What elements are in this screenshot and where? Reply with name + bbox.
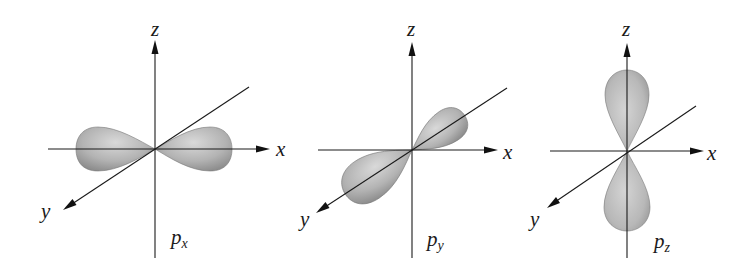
pz-y-arrow-icon (547, 197, 560, 208)
px-orbital-label: px (169, 225, 189, 251)
px-y-arrow-icon (63, 199, 77, 210)
px-z-arrow-icon (152, 40, 159, 54)
pz-y-label: y (528, 207, 540, 231)
pz-z-label: z (621, 17, 630, 41)
px-x-arrow-icon (256, 146, 270, 153)
py-orbital-label: py (425, 227, 445, 253)
px-y-label: y (39, 199, 51, 223)
panel-px: z x y px (39, 17, 286, 258)
py-z-arrow-icon (409, 42, 416, 56)
py-y-arrow-icon (316, 202, 330, 213)
py-y-label: y (298, 207, 310, 231)
pz-z-arrow-icon (624, 43, 631, 57)
py-y-axis (325, 88, 507, 207)
py-z-label: z (406, 17, 415, 41)
py-x-arrow-icon (484, 147, 498, 154)
panel-pz: z x y pz (528, 17, 717, 258)
pz-orbital-label: pz (652, 229, 671, 255)
px-z-label: z (150, 17, 159, 41)
py-x-label: x (502, 140, 513, 164)
px-x-label: x (275, 137, 286, 161)
pz-x-arrow-icon (690, 148, 704, 155)
p-orbitals-diagram: z x y px z x y py (0, 0, 756, 271)
pz-x-label: x (706, 141, 717, 165)
panel-py: z x y py (298, 17, 513, 258)
